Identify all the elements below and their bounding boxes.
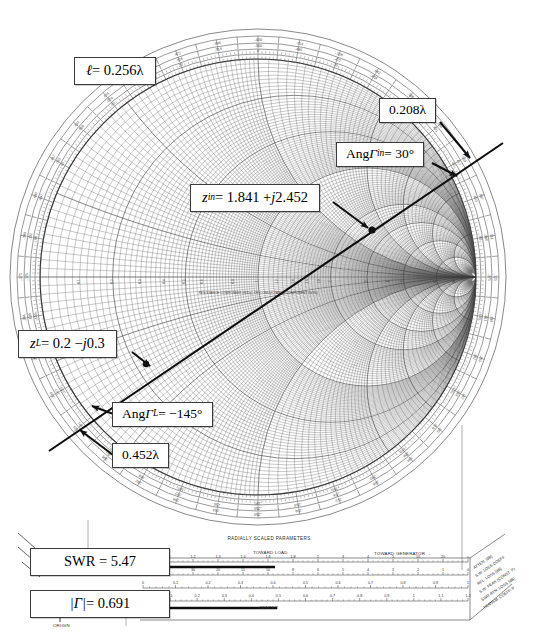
- svg-text:15: 15: [241, 568, 245, 572]
- origin-label: ORIGIN: [53, 623, 70, 628]
- svg-text:0.8: 0.8: [400, 581, 405, 585]
- svg-text:0.7: 0.7: [368, 581, 373, 585]
- angle-gamma-load-callout: Ang ΓL = −145°: [112, 402, 213, 427]
- svg-text:0.3: 0.3: [238, 581, 243, 585]
- ang-in-value: = 30°: [384, 146, 414, 162]
- wavelength-load-value: 0.452λ: [122, 447, 159, 463]
- z-in-subscript: in: [208, 192, 215, 203]
- svg-text:4: 4: [367, 555, 369, 559]
- svg-text:0.5: 0.5: [276, 594, 281, 598]
- center-label: CENTER: [259, 605, 278, 610]
- svg-text:0.2: 0.2: [205, 581, 210, 585]
- svg-text:0.9: 0.9: [433, 581, 438, 585]
- svg-text:∞: ∞: [467, 555, 470, 559]
- svg-text:3: 3: [342, 555, 344, 559]
- svg-text:20: 20: [216, 568, 220, 572]
- z-load-callout: zL = 0.2 − j0.3: [18, 330, 117, 358]
- radially-scaled-parameters: 11.11.21.31.41.61.823451020∞∞40302015108…: [0, 0, 538, 640]
- wavelength-in-callout: 0.208λ: [379, 98, 436, 123]
- svg-text:0.4: 0.4: [270, 581, 275, 585]
- swr-callout: SWR = 5.47: [30, 548, 170, 576]
- svg-text:1.4: 1.4: [240, 555, 245, 559]
- toward-load-label: ← TOWARD LOAD: [247, 550, 288, 555]
- svg-text:0.1: 0.1: [173, 581, 178, 585]
- svg-text:0.6: 0.6: [303, 594, 308, 598]
- svg-text:20: 20: [441, 555, 445, 559]
- svg-text:0.5: 0.5: [303, 581, 308, 585]
- svg-text:1.3: 1.3: [215, 555, 220, 559]
- svg-text:0.6: 0.6: [335, 581, 340, 585]
- angle-gamma-in-callout: Ang Γin = 30°: [336, 142, 424, 167]
- svg-text:1: 1: [467, 581, 469, 585]
- svg-text:1: 1: [442, 568, 444, 572]
- line-length-value: = 0.256λ: [92, 62, 143, 79]
- z-in-real: = 1.841 +: [215, 189, 271, 206]
- svg-text:0.7: 0.7: [330, 594, 335, 598]
- svg-text:0.2: 0.2: [195, 594, 200, 598]
- gamma-in-symbol: Γ: [369, 146, 377, 162]
- line-length-callout: ℓ = 0.256λ: [74, 57, 156, 85]
- svg-text:8: 8: [292, 568, 294, 572]
- toward-generator-label: TOWARD GENERATOR →: [374, 551, 431, 556]
- z-load-imag: 0.3: [87, 335, 105, 352]
- ang-load-value: = −145°: [158, 406, 202, 422]
- gamma-magnitude-symbol: |Γ|: [70, 595, 86, 612]
- svg-text:0.9: 0.9: [384, 594, 389, 598]
- gamma-magnitude-callout: |Γ| = 0.691: [30, 590, 170, 618]
- gamma-load-symbol: Γ: [145, 406, 153, 422]
- svg-text:1.1: 1.1: [438, 594, 443, 598]
- radially-scaled-parameters-title: RADIALLY SCALED PARAMETERS: [0, 536, 538, 541]
- svg-text:5: 5: [342, 568, 344, 572]
- svg-text:1.8: 1.8: [290, 555, 295, 559]
- svg-text:0.8: 0.8: [357, 594, 362, 598]
- svg-text:4: 4: [367, 568, 369, 572]
- ang-in-lead: Ang: [346, 146, 369, 162]
- svg-text:1.2: 1.2: [190, 555, 195, 559]
- wavelength-in-value: 0.208λ: [389, 102, 426, 118]
- svg-text:2: 2: [317, 555, 319, 559]
- svg-text:1.6: 1.6: [265, 555, 270, 559]
- svg-text:10: 10: [266, 568, 270, 572]
- z-in-callout: zin = 1.841 + j2.452: [190, 184, 320, 212]
- svg-text:0: 0: [142, 581, 144, 585]
- svg-text:2: 2: [417, 568, 419, 572]
- svg-text:6: 6: [317, 568, 319, 572]
- swr-value: SWR = 5.47: [64, 553, 136, 570]
- gamma-in-subscript: in: [377, 148, 384, 159]
- svg-text:0: 0: [467, 568, 469, 572]
- gamma-magnitude-value: = 0.691: [86, 595, 130, 612]
- z-load-real: = 0.2 −: [41, 335, 83, 352]
- ang-load-lead: Ang: [122, 406, 145, 422]
- wavelength-load-callout: 0.452λ: [112, 443, 169, 468]
- smith-chart-figure: ..000..014..028..042..056..069..083..097…: [0, 0, 538, 640]
- svg-text:0.4: 0.4: [249, 594, 254, 598]
- svg-text:0.3: 0.3: [222, 594, 227, 598]
- z-in-imag: 2.452: [275, 189, 308, 206]
- svg-text:1: 1: [413, 594, 415, 598]
- svg-text:30: 30: [191, 568, 195, 572]
- svg-text:3: 3: [392, 568, 394, 572]
